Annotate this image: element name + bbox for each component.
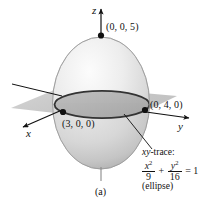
y-intercept-dot [142,107,148,113]
equation-rhs: 1 [193,166,198,176]
z-intercept-label: (0, 0, 5) [106,22,139,32]
x-axis-label: x [26,128,31,139]
term2-exponent: 2 [175,159,178,166]
x-intercept-label: (3, 0, 0) [62,119,95,129]
y-axis-label: y [178,121,183,132]
term1-exponent: 2 [149,159,152,166]
term2-numerator: y2 [169,160,181,171]
equation-operator: + [156,166,167,176]
z-axis-label: z [92,5,96,16]
equation-equals: = [183,166,194,176]
xy-trace-subtitle: (ellipse) [142,182,173,192]
figure-caption: (a) [95,187,106,197]
xy-trace-equation: x2 9 + y2 16 = 1 [141,160,198,182]
equation-term-2: y2 16 [168,160,182,182]
equation-term-1: x2 9 [142,160,155,182]
ellipsoid-figure: z x y (0, 0, 5) (3, 0, 0) (0, 4, 0) xy-t… [0,0,213,209]
y-axis [146,112,189,118]
xy-trace-title: xy-trace: [142,148,175,158]
y-intercept-label: (0, 4, 0) [150,100,183,110]
z-intercept-dot [98,32,104,38]
x-intercept-dot [60,109,66,115]
term1-numerator: x2 [143,160,155,171]
xy-trace-title-rest: -trace: [150,147,174,157]
